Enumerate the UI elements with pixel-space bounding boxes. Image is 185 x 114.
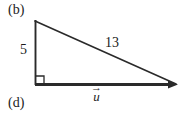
vector-u-arrowhead <box>168 81 178 89</box>
panel-label-b: (b) <box>8 3 24 17</box>
vector-u-label: → u <box>91 85 102 103</box>
hypotenuse-line <box>35 21 176 84</box>
panel-label-d: (d) <box>8 96 24 110</box>
figure-panel: (b) 5 13 → u (d) <box>0 0 185 114</box>
hypotenuse-label: 13 <box>105 36 119 50</box>
vertical-leg-label: 5 <box>20 43 27 57</box>
